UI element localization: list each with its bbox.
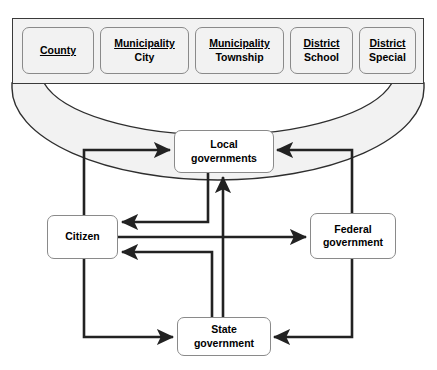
local-type-district-school-head: District: [303, 37, 339, 51]
local-type-county[interactable]: County: [22, 27, 94, 74]
local-type-municipality-city-head: Municipality: [114, 37, 175, 51]
node-citizen[interactable]: Citizen: [47, 215, 118, 259]
edge-federal-to-state: [274, 258, 352, 337]
local-type-municipality-township-head: Municipality: [209, 37, 270, 51]
edge-state-to-citizen: [122, 252, 212, 317]
local-type-district-special-sub: Special: [369, 51, 406, 65]
node-local-governments[interactable]: Local governments: [174, 130, 274, 173]
local-type-district-school-sub: School: [303, 51, 339, 65]
local-type-district-school[interactable]: District School: [290, 27, 353, 74]
local-type-county-head: County: [40, 44, 76, 58]
local-type-municipality-city[interactable]: Municipality City: [100, 27, 189, 74]
local-type-municipality-township-sub: Township: [209, 51, 270, 65]
local-type-district-special-head: District: [369, 37, 406, 51]
local-type-municipality-township[interactable]: Municipality Township: [195, 27, 284, 74]
edge-citizen-to-state: [84, 258, 173, 337]
node-state-government[interactable]: State government: [177, 317, 271, 356]
diagram-canvas: County Municipality City Municipality To…: [0, 0, 437, 370]
node-citizen-label: Citizen: [65, 230, 99, 243]
local-type-municipality-city-sub: City: [114, 51, 175, 65]
node-federal-government[interactable]: Federal government: [310, 213, 396, 259]
local-type-district-special[interactable]: District Special: [359, 27, 416, 74]
node-local-governments-label: Local governments: [191, 138, 257, 164]
node-federal-government-label: Federal government: [323, 223, 383, 249]
node-state-government-label: State government: [194, 323, 254, 349]
